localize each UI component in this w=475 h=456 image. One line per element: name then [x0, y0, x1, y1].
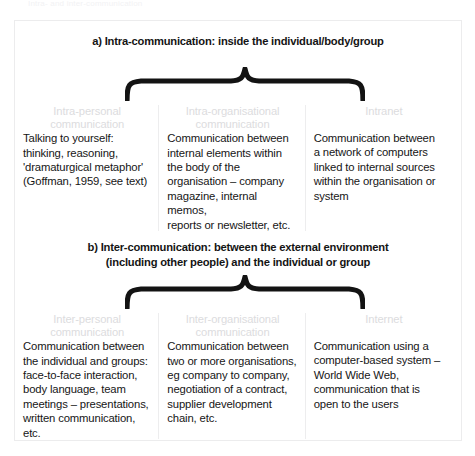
- column-header-intranet: Intranet: [314, 105, 454, 130]
- column-body-intra-organisational: Communication between internal elements …: [167, 131, 297, 232]
- column-header-inter-organisational: Inter-organisational communication: [167, 313, 297, 338]
- curly-brace-icon: [125, 67, 365, 101]
- section-b-heading: b) Inter-communication: between the exte…: [15, 240, 461, 269]
- section-a-columns: Intra-personal communication Talking to …: [15, 105, 461, 231]
- section-a-heading: a) Intra-communication: inside the indiv…: [15, 34, 461, 49]
- column-body-intranet: Communication between a network of compu…: [314, 131, 454, 203]
- curly-brace-icon: [125, 275, 365, 309]
- column-intra-organisational: Intra-organisational communication Commu…: [158, 105, 304, 231]
- column-header-intra-organisational: Intra-organisational communication: [167, 105, 297, 130]
- section-b-columns: Inter-personal communication Communicati…: [15, 313, 461, 439]
- figure-frame: a) Intra-communication: inside the indiv…: [14, 20, 462, 441]
- column-intranet: Intranet Communication between a network…: [305, 105, 461, 231]
- column-body-internet: Communication using a computer-based sys…: [314, 339, 454, 411]
- column-header-intra-personal: Intra-personal communication: [23, 105, 151, 130]
- column-body-intra-personal: Talking to yourself: thinking, reasoning…: [23, 131, 151, 189]
- column-header-inter-personal: Inter-personal communication: [23, 313, 151, 338]
- column-body-inter-organisational: Communication between two or more organi…: [167, 339, 297, 425]
- column-header-internet: Internet: [314, 313, 454, 338]
- section-inter-communication: b) Inter-communication: between the exte…: [15, 233, 461, 441]
- column-inter-personal: Inter-personal communication Communicati…: [15, 313, 158, 439]
- section-intra-communication: a) Intra-communication: inside the indiv…: [15, 21, 461, 233]
- cropped-header-sliver: Intra- and inter-communication: [28, 0, 208, 7]
- column-body-inter-personal: Communication between the individual and…: [23, 339, 151, 440]
- column-internet: Internet Communication using a computer-…: [305, 313, 461, 439]
- column-intra-personal: Intra-personal communication Talking to …: [15, 105, 158, 231]
- column-inter-organisational: Inter-organisational communication Commu…: [158, 313, 304, 439]
